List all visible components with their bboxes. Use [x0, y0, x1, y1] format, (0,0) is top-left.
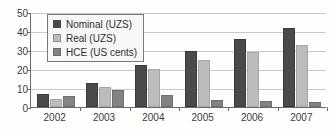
x-tick-label: 2005	[192, 112, 214, 123]
bar	[86, 83, 98, 107]
legend-swatch-icon	[53, 34, 61, 42]
bar	[112, 90, 124, 107]
legend-label: Real (UZS)	[66, 33, 116, 44]
bar	[283, 28, 295, 107]
y-tick-label: 50	[4, 8, 28, 19]
x-tick-label: 2003	[93, 112, 115, 123]
x-tick	[278, 107, 279, 111]
bar	[63, 96, 75, 107]
x-tick	[80, 107, 81, 111]
legend-item-hce: HCE (US cents)	[53, 46, 137, 58]
bar	[309, 102, 321, 107]
bar	[148, 69, 160, 107]
bar	[296, 45, 308, 107]
legend-label: Nominal (UZS)	[66, 19, 132, 30]
legend-item-real: Real (UZS)	[53, 32, 137, 44]
bar	[99, 87, 111, 107]
y-tick-label: 30	[4, 46, 28, 57]
x-tick-label: 2007	[290, 112, 312, 123]
bar	[260, 101, 272, 107]
x-tick	[130, 107, 131, 111]
bar-chart: 50 40 30 20 10 0 20022003200420052006200…	[0, 0, 334, 134]
bar	[211, 100, 223, 107]
x-tick	[228, 107, 229, 111]
legend-swatch-icon	[53, 20, 61, 28]
bar	[50, 99, 62, 107]
x-tick	[179, 107, 180, 111]
chart-legend: Nominal (UZS) Real (UZS) HCE (US cents)	[47, 14, 144, 62]
y-tick-label: 40	[4, 27, 28, 38]
bar	[247, 52, 259, 107]
bar	[161, 95, 173, 107]
y-tick-label: 20	[4, 65, 28, 76]
x-tick	[327, 107, 328, 111]
x-tick-label: 2002	[44, 112, 66, 123]
legend-label: HCE (US cents)	[66, 47, 137, 58]
bar-group	[228, 13, 277, 107]
bar	[37, 94, 49, 107]
x-tick-label: 2004	[142, 112, 164, 123]
legend-swatch-icon	[53, 48, 61, 56]
bar	[185, 51, 197, 107]
y-tick	[27, 108, 31, 109]
bar-group	[278, 13, 327, 107]
bar	[198, 60, 210, 107]
y-tick-label: 0	[4, 103, 28, 114]
bar-group	[179, 13, 228, 107]
bar	[234, 39, 246, 107]
y-tick-label: 10	[4, 84, 28, 95]
legend-item-nominal: Nominal (UZS)	[53, 18, 137, 30]
x-tick-label: 2006	[241, 112, 263, 123]
bar	[135, 65, 147, 107]
